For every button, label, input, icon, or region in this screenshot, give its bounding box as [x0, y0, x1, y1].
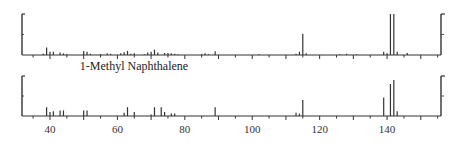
x-tick-label: 80 — [179, 123, 191, 135]
x-tick-label: 140 — [379, 123, 396, 135]
x-tick-label: 60 — [112, 123, 124, 135]
x-tick-label: 40 — [44, 123, 56, 135]
x-tick-label: 120 — [311, 123, 328, 135]
x-axis-tick-labels: 406080100120140 — [44, 123, 395, 135]
sample-spectrum-panel — [22, 76, 445, 120]
mass-spectrum-chart: 1-Methyl Naphthalene 406080100120140 — [0, 0, 464, 146]
reference-spectrum-panel — [22, 14, 445, 59]
x-tick-label: 100 — [244, 123, 261, 135]
compound-name-label: 1-Methyl Naphthalene — [80, 59, 188, 73]
